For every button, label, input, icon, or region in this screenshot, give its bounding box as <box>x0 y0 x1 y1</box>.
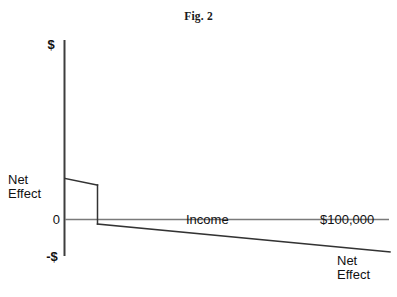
net-effect-positive-segment <box>65 179 98 186</box>
net-effect-lower-annotation: Net Effect <box>337 254 393 282</box>
income-threshold-label: $100,000 <box>320 213 374 226</box>
net-effect-lower-line-1: Net <box>337 254 393 268</box>
x-axis-label: Income <box>186 213 229 226</box>
y-axis-negative-label: -$ <box>43 250 61 263</box>
figure-container: Fig. 2 $ -$ 0 Net Effect Income $100,000… <box>0 0 397 297</box>
net-effect-lower-line-2: Effect <box>337 268 393 282</box>
net-effect-upper-line-1: Net <box>8 173 60 187</box>
net-effect-negative-segment <box>98 224 391 252</box>
origin-label: 0 <box>44 213 60 226</box>
net-effect-upper-annotation: Net Effect <box>8 173 60 201</box>
y-axis-positive-label: $ <box>44 38 58 51</box>
net-effect-upper-line-2: Effect <box>8 187 60 201</box>
